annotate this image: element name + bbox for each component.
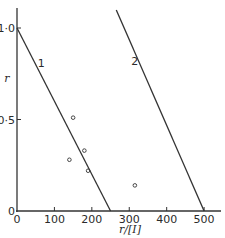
x-axis-label: r/[I] [119, 223, 142, 236]
line-label-1: 1 [38, 57, 45, 70]
x-tick-label: 100 [44, 213, 65, 226]
y-axis-label: r [4, 72, 10, 85]
data-point [83, 149, 87, 153]
x-tick-label: 400 [156, 213, 177, 226]
x-tick-label: 200 [81, 213, 102, 226]
scatter-chart: 010020030040050000·51·0r/[I]r12 [0, 0, 225, 238]
x-tick-label: 500 [194, 213, 215, 226]
line-label-2: 2 [131, 55, 138, 68]
line-series-2 [116, 10, 204, 211]
data-point [68, 158, 72, 162]
y-tick-label: 0 [8, 205, 15, 218]
line-series-1 [17, 28, 111, 211]
data-point [133, 184, 137, 188]
data-point [71, 116, 75, 120]
y-tick-label: 0·5 [0, 114, 15, 127]
y-tick-label: 1·0 [0, 22, 15, 35]
